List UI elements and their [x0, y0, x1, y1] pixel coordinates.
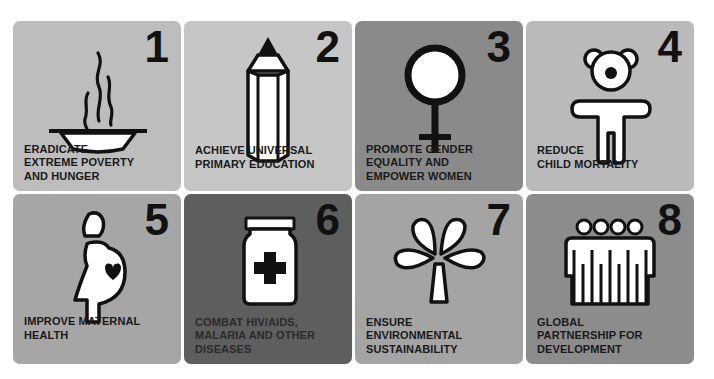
goal-label: IMPROVE MATERNAL HEALTH — [24, 315, 175, 342]
goal-label: COMBAT HIV/AIDS, MALARIA AND OTHER DISEA… — [195, 316, 346, 357]
goal-tile-2: 2 ACHIEVE UNIVERSAL PRIMARY EDUCATION — [184, 21, 352, 191]
goals-grid: 1 ERADICATE EXTREME POVERTY AND HUNGER 2 — [13, 21, 694, 364]
goal-tile-7: 7 ENSURE ENVIRONMENTAL SUSTAINABILITY — [355, 194, 523, 364]
goal-label: ENSURE ENVIRONMENTAL SUSTAINABILITY — [366, 316, 517, 357]
tree-leaves-icon — [391, 214, 487, 306]
goal-tile-6: 6 COMBAT HIV/AIDS, MALARIA AND OTHER DIS… — [184, 194, 352, 364]
goal-number: 6 — [316, 198, 340, 242]
bowl-steam-icon — [43, 35, 153, 155]
goal-number: 8 — [658, 198, 682, 242]
goal-tile-1: 1 ERADICATE EXTREME POVERTY AND HUNGER — [13, 21, 181, 191]
goal-label: GLOBAL PARTNERSHIP FOR DEVELOPMENT — [537, 316, 688, 357]
goal-number: 3 — [487, 25, 511, 69]
pregnant-woman-heart-icon — [69, 208, 139, 324]
goal-tile-4: 4 REDUCE CHILD MORTALITY — [526, 21, 694, 191]
goal-label: REDUCE CHILD MORTALITY — [537, 144, 688, 171]
goal-label: ACHIEVE UNIVERSAL PRIMARY EDUCATION — [195, 144, 346, 171]
female-symbol-icon — [403, 43, 473, 155]
goal-label: ERADICATE EXTREME POVERTY AND HUNGER — [24, 143, 175, 184]
goal-tile-5: 5 IMPROVE MATERNAL HEALTH — [13, 194, 181, 364]
goal-number: 5 — [145, 198, 169, 242]
goal-number: 2 — [316, 25, 340, 69]
goal-label: PROMOTE GENDER EQUALITY AND EMPOWER WOME… — [366, 143, 517, 184]
goal-number: 4 — [658, 25, 682, 69]
goal-tile-3: 3 PROMOTE GENDER EQUALITY AND EMPOWER WO… — [355, 21, 523, 191]
goal-number: 7 — [487, 198, 511, 242]
medicine-jar-cross-icon — [242, 216, 298, 306]
goal-tile-8: 8 GLOBAL PARTNERSHIP FOR DE — [526, 194, 694, 364]
group-people-icon — [564, 216, 656, 308]
